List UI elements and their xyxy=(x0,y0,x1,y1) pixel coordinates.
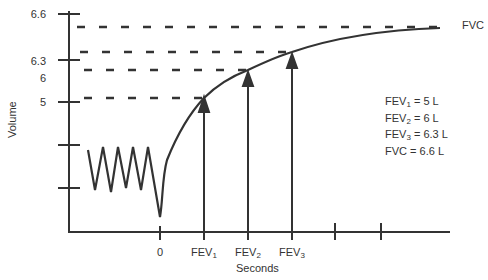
spirometry-diagram: 6.6 6.3 6 5 Volume FVC 0 FEV1 FEV2 FEV3 … xyxy=(0,0,488,280)
x-axis-title: Seconds xyxy=(236,263,279,274)
fvc-label: FVC xyxy=(462,20,484,31)
y-tick-label-6.6: 6.6 xyxy=(16,9,46,20)
legend-fev1: FEV1 = 5 L xyxy=(385,95,448,112)
y-axis-title: Volume xyxy=(6,101,18,138)
x-tick-label-fev3: FEV3 xyxy=(272,247,312,260)
values-legend: FEV1 = 5 L FEV2 = 6 L FEV3 = 6.3 L FVC =… xyxy=(385,95,448,157)
x-tick-label-fev1: FEV1 xyxy=(184,247,224,260)
y-tick-label-6.3: 6.3 xyxy=(16,56,46,67)
legend-fev2: FEV2 = 6 L xyxy=(385,112,448,129)
x-tick-label-fev2: FEV2 xyxy=(228,247,268,260)
y-tick-label-6: 6 xyxy=(16,73,46,84)
legend-fvc: FVC = 6.6 L xyxy=(385,145,448,158)
legend-fev3: FEV3 = 6.3 L xyxy=(385,128,448,145)
x-tick-label-0: 0 xyxy=(140,247,180,258)
y-tick-label-5: 5 xyxy=(16,97,46,108)
